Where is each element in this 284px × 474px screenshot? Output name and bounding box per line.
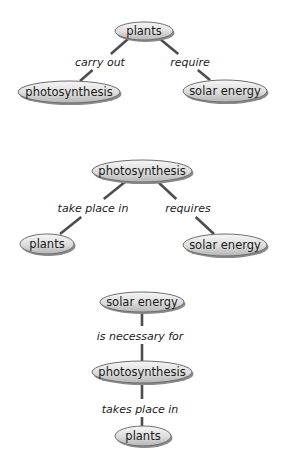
- node-label: solar energy: [189, 84, 261, 98]
- node-solar-energy: solar energy: [100, 292, 186, 314]
- link-plants-to-solar-energy: require: [160, 39, 210, 80]
- node-label: plants: [126, 24, 161, 38]
- node-solar-energy: solar energy: [183, 80, 269, 104]
- node-plants: plants: [115, 22, 175, 42]
- node-solar-energy: solar energy: [183, 234, 269, 258]
- connector-line: [160, 39, 178, 54]
- node-plants: plants: [20, 234, 76, 256]
- link-label: is necessary for: [97, 330, 185, 343]
- connector-line: [111, 39, 128, 54]
- connector-line: [198, 70, 210, 80]
- link-photosynthesis-to-plants: take place in: [58, 182, 129, 234]
- link-solar-energy-to-photosynthesis: is necessary for: [97, 312, 185, 361]
- link-label: take place in: [58, 202, 129, 215]
- link-plants-to-photosynthesis: carry out: [75, 39, 128, 81]
- connector-line: [104, 182, 125, 199]
- node-label: solar energy: [106, 295, 178, 309]
- map-solar-energy-root: is necessary fortakes place insolar ener…: [92, 292, 194, 448]
- node-label: plants: [125, 429, 160, 443]
- link-label: carry out: [75, 56, 126, 69]
- node-photosynthesis: photosynthesis: [92, 160, 194, 184]
- connector-line: [60, 217, 81, 234]
- node-photosynthesis: photosynthesis: [18, 81, 122, 105]
- link-label: requires: [165, 202, 211, 215]
- node-photosynthesis: photosynthesis: [92, 361, 194, 385]
- connector-line: [196, 217, 214, 234]
- connector-line: [158, 182, 176, 199]
- node-plants: plants: [115, 426, 173, 448]
- node-label: solar energy: [189, 238, 261, 252]
- map-photosynthesis-root: take place inrequiresphotosynthesisplant…: [20, 160, 269, 258]
- concept-map-diagram: carry outrequireplantsphotosynthesissola…: [0, 0, 284, 474]
- node-label: photosynthesis: [98, 164, 185, 178]
- link-label: require: [170, 56, 210, 69]
- connector-line: [80, 70, 93, 81]
- node-label: photosynthesis: [98, 365, 185, 379]
- node-label: photosynthesis: [25, 85, 112, 99]
- link-photosynthesis-to-solar-energy: requires: [158, 182, 214, 234]
- node-label: plants: [29, 237, 64, 251]
- link-photosynthesis-to-plants: takes place in: [102, 383, 179, 426]
- map-plants-root: carry outrequireplantsphotosynthesissola…: [18, 22, 269, 105]
- link-label: takes place in: [102, 403, 179, 416]
